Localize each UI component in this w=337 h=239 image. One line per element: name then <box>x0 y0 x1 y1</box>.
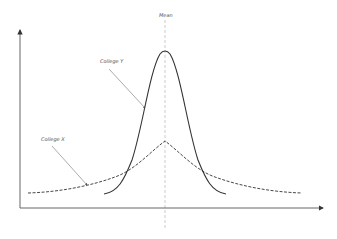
college-y-label: College Y <box>100 58 124 65</box>
distribution-diagram: Mean College Y College X <box>0 0 337 239</box>
college-x-label: College X <box>41 136 65 143</box>
college-x-pointer <box>52 146 87 185</box>
college-y-pointer <box>109 69 145 108</box>
mean-label: Mean <box>159 12 173 18</box>
